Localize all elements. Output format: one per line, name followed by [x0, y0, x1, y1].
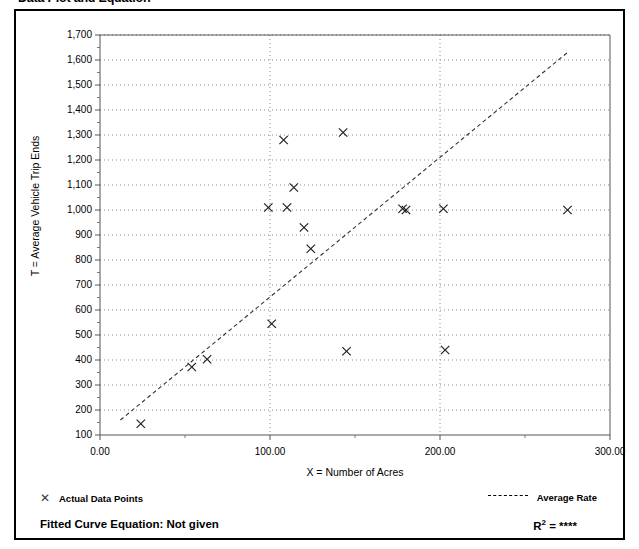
y-axis-tick-label: 200 — [40, 405, 92, 415]
data-point-marker — [268, 320, 276, 328]
y-axis-tick-label: 1,700 — [40, 30, 92, 40]
x-axis-tick-label: 200.00 — [405, 447, 475, 457]
x-axis-tick-label: 0.00 — [65, 447, 135, 457]
r-squared-number: = **** — [546, 520, 577, 532]
y-axis-tick-label: 500 — [40, 330, 92, 340]
legend-label-actual-data-points: Actual Data Points — [59, 493, 143, 504]
y-axis-tick-label: 100 — [40, 430, 92, 440]
fitted-curve-equation: Fitted Curve Equation: Not given — [40, 518, 219, 530]
r-squared-value: R2 = **** — [533, 518, 577, 532]
data-point-marker — [441, 346, 449, 354]
y-axis-tick-label: 1,000 — [40, 205, 92, 215]
legend-label-average-rate: Average Rate — [537, 492, 597, 503]
legend-item-average-rate: Average Rate — [488, 492, 597, 503]
y-axis-tick-label: 300 — [40, 380, 92, 390]
data-point-marker — [203, 355, 211, 363]
y-axis-tick-label: 1,300 — [40, 130, 92, 140]
y-axis-tick-label: 800 — [40, 255, 92, 265]
data-point-marker — [188, 363, 196, 371]
x-axis-tick-label: 300.00 — [575, 447, 639, 457]
data-point-marker — [279, 136, 287, 144]
x-marker-icon: ✕ — [40, 492, 50, 504]
chart-plot-region: T = Average Vehicle Trip Ends X = Number… — [0, 0, 639, 549]
y-axis-tick-label: 1,600 — [40, 55, 92, 65]
y-axis-tick-label: 1,400 — [40, 105, 92, 115]
chart-footer: Fitted Curve Equation: Not given R2 = **… — [0, 518, 639, 540]
data-point-marker — [339, 128, 347, 136]
data-point-marker — [300, 223, 308, 231]
average-rate-trend-line — [120, 53, 567, 421]
data-point-marker — [342, 347, 350, 355]
r-squared-prefix: R — [533, 520, 541, 532]
data-point-marker — [137, 420, 145, 428]
data-point-marker — [307, 245, 315, 253]
y-axis-tick-label: 1,100 — [40, 180, 92, 190]
y-axis-tick-label: 1,200 — [40, 155, 92, 165]
legend-item-actual-data-points: ✕ Actual Data Points — [40, 492, 143, 504]
data-point-marker — [290, 183, 298, 191]
data-point-marker — [439, 205, 447, 213]
dashed-line-icon — [488, 495, 528, 496]
y-axis-tick-label: 400 — [40, 355, 92, 365]
y-axis-tick-label: 700 — [40, 280, 92, 290]
chart-legend: ✕ Actual Data Points Average Rate — [0, 492, 639, 510]
x-axis-title: X = Number of Acres — [100, 466, 610, 478]
y-axis-tick-label: 900 — [40, 230, 92, 240]
data-point-marker — [283, 203, 291, 211]
x-axis-tick-label: 100.00 — [235, 447, 305, 457]
y-axis-tick-label: 600 — [40, 305, 92, 315]
y-axis-tick-label: 1,500 — [40, 80, 92, 90]
